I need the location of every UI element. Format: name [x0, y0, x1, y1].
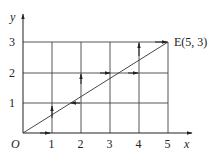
x-tick-label: 1 [49, 137, 55, 151]
y-tick-label: 1 [9, 96, 15, 110]
x-axis-label: x [183, 137, 190, 151]
x-tick-label: 5 [165, 137, 171, 151]
x-tick-label: 4 [136, 137, 142, 151]
x-tick-label: 3 [107, 137, 113, 151]
y-axis-label: y [9, 10, 16, 24]
diagonal-line [23, 42, 168, 133]
y-tick-label: 3 [9, 35, 15, 49]
origin-label: O [11, 137, 20, 151]
lattice-path-diagram: y x O 1 2 3 4 5 1 2 3 E(5, 3) [0, 0, 221, 156]
y-tick-label: 2 [9, 66, 15, 80]
point-e-label: E(5, 3) [174, 35, 207, 49]
path-arrows [40, 42, 167, 133]
x-tick-label: 2 [78, 137, 84, 151]
